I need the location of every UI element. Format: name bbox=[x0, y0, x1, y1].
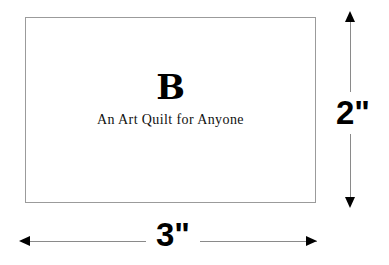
arrow-up-icon bbox=[345, 11, 355, 22]
arrow-right-icon bbox=[306, 236, 317, 246]
block-letter: B bbox=[26, 70, 315, 104]
width-dimension-label: 3" bbox=[146, 216, 200, 254]
arrow-left-icon bbox=[19, 236, 30, 246]
arrow-down-icon bbox=[345, 197, 355, 208]
block-tagline: An Art Quilt for Anyone bbox=[26, 112, 315, 128]
quilt-block-rectangle: B An Art Quilt for Anyone bbox=[25, 17, 316, 203]
diagram-canvas: B An Art Quilt for Anyone 3" 2" bbox=[0, 0, 389, 265]
height-dimension-label: 2" bbox=[329, 92, 377, 134]
